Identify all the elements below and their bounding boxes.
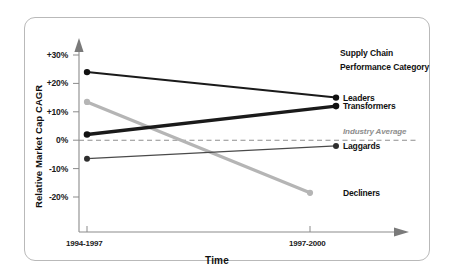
x-tick-label-2: 1997-2000 — [289, 240, 325, 248]
series-label-transformers: Transformers — [343, 102, 396, 111]
legend-title-line-1: Supply Chain — [340, 49, 393, 58]
y-tick-label-20: +20% — [40, 79, 68, 88]
y-axis — [74, 38, 83, 232]
y-tick-label-0: 0% — [40, 136, 68, 145]
y-axis-title: Relative Market Cap CAGR — [34, 85, 44, 208]
chart-figure: +30% +20% +10% 0% -10% -20% Relative Mar… — [0, 0, 454, 278]
x-axis — [79, 227, 409, 236]
series-decliners — [84, 99, 330, 196]
x-tick-label-1: 1994-1997 — [66, 240, 102, 248]
y-tick-label-10: +10% — [40, 108, 68, 117]
series-label-decliners: Decliners — [343, 189, 380, 198]
chart-plot-area — [0, 0, 454, 278]
series-label-laggards: Laggards — [343, 142, 380, 151]
industry-average-label: Industry Average — [343, 128, 406, 136]
y-tick-label-neg10: -10% — [40, 165, 68, 174]
y-tick-label-neg20: -20% — [40, 193, 68, 202]
series-transformers — [84, 103, 340, 138]
x-axis-title: Time — [205, 256, 229, 266]
series-leaders — [84, 69, 339, 101]
x-axis-ticks — [87, 226, 310, 232]
y-axis-ticks — [73, 55, 79, 197]
y-tick-label-30: +30% — [40, 51, 68, 60]
series-laggards — [84, 143, 339, 162]
legend-title-line-2: Performance Category — [340, 63, 429, 72]
